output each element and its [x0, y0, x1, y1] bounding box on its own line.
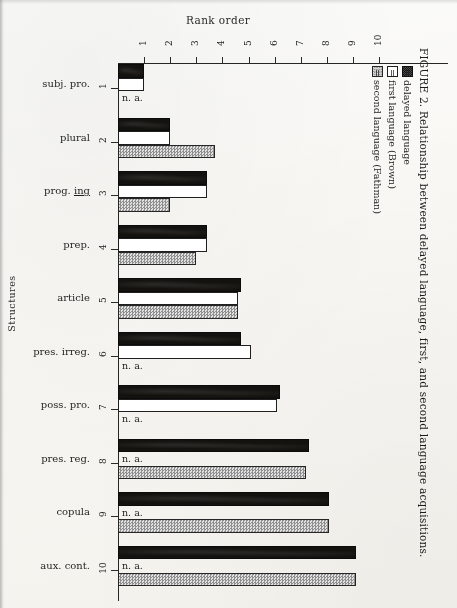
- y-rank-10: 10: [98, 561, 108, 575]
- bar-first-language: [118, 78, 144, 92]
- y-rank-7: 7: [98, 400, 108, 414]
- bar-delayed: [118, 171, 207, 185]
- y-rank-4: 4: [98, 240, 108, 254]
- bar-first-language: [118, 399, 277, 413]
- y-category-label: prog. ing: [18, 185, 90, 196]
- bar-delayed: [118, 64, 144, 78]
- bar-first-language: [118, 185, 207, 199]
- y-tick: [111, 88, 118, 89]
- x-tick-label-3: 3: [190, 40, 200, 46]
- x-tick-label-5: 5: [243, 40, 253, 46]
- bar-second-language: [118, 466, 306, 480]
- x-tick: [353, 57, 354, 64]
- bar-second-language: [118, 145, 215, 159]
- x-tick-label-6: 6: [269, 40, 279, 46]
- y-tick: [111, 142, 118, 143]
- y-category-label: pres. irreg.: [18, 346, 90, 357]
- y-category-label: pres. reg.: [18, 453, 90, 464]
- not-available-marker: n. a.: [122, 453, 143, 464]
- not-available-marker: n. a.: [122, 92, 143, 103]
- x-tick-label-4: 4: [216, 40, 226, 46]
- not-available-marker: n. a.: [122, 413, 143, 424]
- x-tick: [222, 57, 223, 64]
- bar-delayed: [118, 439, 309, 453]
- y-category-label: copula: [18, 506, 90, 517]
- bar-delayed: [118, 332, 241, 346]
- bar-delayed: [118, 278, 241, 292]
- legend-label: = second language (Fathman): [372, 69, 383, 214]
- bar-second-language: [118, 573, 356, 587]
- y-tick: [111, 249, 118, 250]
- y-rank-9: 9: [98, 507, 108, 521]
- y-rank-1: 1: [98, 79, 108, 93]
- bar-delayed: [118, 546, 356, 560]
- figure-caption: FIGURE 2. Relationship between delayed l…: [418, 48, 430, 558]
- bar-delayed: [118, 225, 207, 239]
- y-category-label: subj. pro.: [18, 78, 90, 89]
- x-tick: [275, 57, 276, 64]
- y-rank-6: 6: [98, 347, 108, 361]
- bar-delayed: [118, 118, 170, 132]
- y-tick: [111, 570, 118, 571]
- x-tick: [249, 57, 250, 64]
- x-axis-title: Rank order: [186, 14, 250, 26]
- y-rank-5: 5: [98, 293, 108, 307]
- bar-first-language: [118, 345, 251, 359]
- y-tick: [111, 463, 118, 464]
- bar-delayed: [118, 492, 329, 506]
- x-tick-label-2: 2: [164, 40, 174, 46]
- bar-second-language: [118, 519, 329, 533]
- bar-delayed: [118, 385, 280, 399]
- x-tick: [170, 57, 171, 64]
- y-axis-title: Structures: [6, 275, 17, 331]
- x-tick-label-1: 1: [138, 40, 148, 46]
- bar-first-language: [118, 238, 207, 252]
- x-tick-label-8: 8: [321, 40, 331, 46]
- x-tick: [144, 57, 145, 64]
- x-tick: [301, 57, 302, 64]
- x-tick-label-9: 9: [347, 40, 357, 46]
- y-category-label: plural: [18, 132, 90, 143]
- x-tick-label-10: 10: [373, 35, 383, 46]
- y-rank-3: 3: [98, 186, 108, 200]
- x-tick: [327, 57, 328, 64]
- not-available-marker: n. a.: [122, 560, 143, 571]
- y-tick: [111, 356, 118, 357]
- bar-first-language: [118, 292, 238, 306]
- legend-label: = first language (Brown): [387, 69, 398, 189]
- bar-first-language: [118, 131, 170, 145]
- y-category-label: aux. cont.: [18, 560, 90, 571]
- y-rank-8: 8: [98, 454, 108, 468]
- y-tick: [111, 516, 118, 517]
- y-tick: [111, 409, 118, 410]
- bar-second-language: [118, 252, 196, 266]
- figure-page: Rank order Structures 12345678910 1subj.…: [0, 0, 457, 608]
- y-rank-2: 2: [98, 133, 108, 147]
- bar-second-language: [118, 198, 170, 212]
- bar-second-language: [118, 305, 238, 319]
- x-tick: [379, 57, 380, 64]
- y-category-label: article: [18, 292, 90, 303]
- x-axis-line: [118, 63, 448, 64]
- y-tick: [111, 302, 118, 303]
- y-category-label: poss. pro.: [18, 399, 90, 410]
- not-available-marker: n. a.: [122, 507, 143, 518]
- x-tick: [196, 57, 197, 64]
- x-tick-label-7: 7: [295, 40, 305, 46]
- y-category-label: prep.: [18, 239, 90, 250]
- not-available-marker: n. a.: [122, 360, 143, 371]
- y-tick: [111, 195, 118, 196]
- legend-label: = delayed language: [402, 69, 413, 165]
